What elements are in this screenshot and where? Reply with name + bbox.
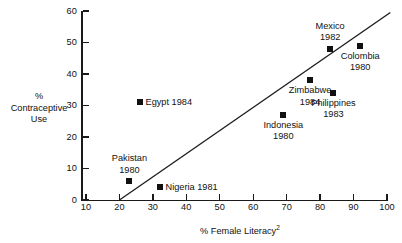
data-label-colombia: Colombia1980 xyxy=(323,51,397,74)
y-axis-title-line-3: Use xyxy=(0,114,78,126)
data-marker-colombia xyxy=(357,43,363,49)
x-tick-label-50: 50 xyxy=(205,202,235,212)
data-label-line: Indonesia xyxy=(246,120,320,131)
data-label-line: 1980 xyxy=(323,62,397,73)
x-axis-title: % Female Literacy2 xyxy=(150,226,330,236)
data-label-line: Pakistan xyxy=(92,153,166,164)
scatter-plot-figure: 0102030405060 102030405060708090100 % Co… xyxy=(0,0,402,243)
data-label-line: Nigeria 1981 xyxy=(166,182,240,193)
x-tick-label-20: 20 xyxy=(104,202,134,212)
data-marker-zimbabwe xyxy=(307,77,313,83)
y-axis-title-line-2: Contraceptive xyxy=(0,103,78,115)
data-label-line: Colombia xyxy=(323,51,397,62)
data-marker-indonesia xyxy=(280,112,286,118)
y-tick-10 xyxy=(83,168,89,169)
y-tick-60 xyxy=(83,10,89,11)
data-label-pakistan: Pakistan1980 xyxy=(92,153,166,176)
y-tick-label-50: 50 xyxy=(51,37,77,47)
x-tick-90 xyxy=(353,194,354,200)
y-tick-label-10: 10 xyxy=(51,163,77,173)
data-label-line: 1980 xyxy=(246,131,320,142)
data-label-mexico: Mexico1982 xyxy=(293,21,367,44)
data-label-line: 1982 xyxy=(293,32,367,43)
x-tick-label-60: 60 xyxy=(238,202,268,212)
x-tick-40 xyxy=(186,194,187,200)
y-tick-20 xyxy=(83,136,89,137)
x-tick-label-90: 90 xyxy=(339,202,369,212)
x-tick-100 xyxy=(386,194,387,200)
data-label-line: Mexico xyxy=(293,21,367,32)
data-label-line: Egypt 1984 xyxy=(146,97,220,108)
data-label-philippines: Philippines1983 xyxy=(296,98,370,121)
y-tick-label-40: 40 xyxy=(51,69,77,79)
x-axis-title-superscript: 2 xyxy=(276,224,280,231)
y-axis-title: % Contraceptive Use xyxy=(0,91,78,126)
y-tick-0 xyxy=(83,199,89,200)
x-tick-label-100: 100 xyxy=(372,202,402,212)
x-tick-60 xyxy=(253,194,254,200)
data-label-egypt: Egypt 1984 xyxy=(146,97,220,108)
data-marker-pakistan xyxy=(126,178,132,184)
x-axis-line xyxy=(81,200,388,202)
data-label-line: 1980 xyxy=(92,165,166,176)
x-tick-label-80: 80 xyxy=(305,202,335,212)
x-tick-label-30: 30 xyxy=(138,202,168,212)
y-tick-30 xyxy=(83,105,89,106)
x-tick-10 xyxy=(85,194,86,200)
x-tick-label-10: 10 xyxy=(71,202,101,212)
data-label-nigeria: Nigeria 1981 xyxy=(166,182,240,193)
x-tick-30 xyxy=(152,194,153,200)
x-tick-50 xyxy=(219,194,220,200)
data-label-line: 1983 xyxy=(296,109,370,120)
y-tick-40 xyxy=(83,73,89,74)
x-tick-label-70: 70 xyxy=(272,202,302,212)
data-label-indonesia: Indonesia1980 xyxy=(246,120,320,143)
y-tick-50 xyxy=(83,42,89,43)
x-tick-70 xyxy=(286,194,287,200)
data-marker-philippines xyxy=(330,90,336,96)
data-marker-egypt xyxy=(137,99,143,105)
data-marker-nigeria xyxy=(157,184,163,190)
x-axis-title-text: % Female Literacy xyxy=(200,226,276,236)
x-tick-label-40: 40 xyxy=(171,202,201,212)
y-axis-title-line-1: % xyxy=(0,91,78,103)
x-tick-80 xyxy=(319,194,320,200)
x-tick-20 xyxy=(119,194,120,200)
y-tick-label-20: 20 xyxy=(51,132,77,142)
y-tick-label-60: 60 xyxy=(51,6,77,16)
data-label-line: Philippines xyxy=(296,98,370,109)
